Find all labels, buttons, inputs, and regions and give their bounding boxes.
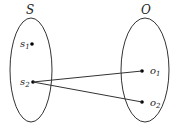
svg-text:o1: o1 — [150, 65, 161, 78]
mapping-diagram: S s1 s2 O o1 o2 — [0, 0, 175, 128]
point-s1 — [30, 42, 34, 46]
arrow-s2-o1 — [33, 71, 142, 82]
element-o1: o1 — [140, 65, 160, 78]
arrow-s2-o2 — [33, 82, 142, 102]
set-o-label: O — [141, 3, 151, 17]
svg-text:o2: o2 — [150, 97, 161, 110]
element-s1: s1 — [20, 38, 34, 51]
set-s-ellipse — [10, 18, 52, 122]
set-o: O o1 o2 — [121, 3, 169, 122]
set-s: S s1 s2 — [10, 3, 52, 122]
svg-text:s1: s1 — [20, 38, 30, 51]
set-s-label: S — [26, 3, 34, 17]
element-o2: o2 — [140, 97, 161, 110]
svg-text:s2: s2 — [20, 76, 30, 89]
set-o-ellipse — [121, 18, 169, 122]
element-s2: s2 — [20, 76, 35, 89]
